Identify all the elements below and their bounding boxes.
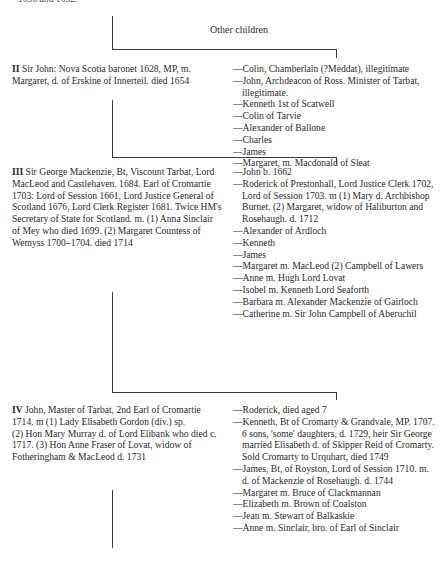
child-item: Margaret m. MacLeod (2) Campbell of Lawe… <box>233 260 438 272</box>
child-item: Kenneth 1st of Scatwell <box>233 98 438 110</box>
sibling-tick-iii <box>336 392 337 400</box>
child-item: Jean m. Stewart of Balkaskie <box>233 510 438 522</box>
child-item: Roderick of Prestonhall, Lord Justice Cl… <box>233 178 438 225</box>
child-item: James, Bt, of Royston, Lord of Session 1… <box>233 463 438 487</box>
descent-line-iii <box>112 292 113 393</box>
generation-iii-entry: III Sir George Mackenzie, Bt, Viscount T… <box>12 166 222 249</box>
sibling-tick-top <box>336 49 337 58</box>
cutoff-text: 1650 and 1652. <box>18 0 77 5</box>
child-item: Colin, Chamberlain (?Meddat), illegitima… <box>233 63 438 75</box>
sibling-bracket-top <box>112 49 337 50</box>
generation-ii-entry: II Sir John: Nova Scotia baronet 1628, M… <box>12 63 222 87</box>
sibling-bracket-ii <box>112 157 337 158</box>
generation-numeral: III <box>12 166 23 177</box>
child-item: John b. 1662 <box>233 166 438 178</box>
other-children-label: Other children <box>210 24 268 35</box>
child-item: Colin of Tarvie <box>233 110 438 122</box>
generation-description: John, Master of Tarbat, 2nd Earl of Crom… <box>12 404 201 427</box>
child-item: Anne m. Hugh Lord Lovat <box>233 272 438 284</box>
generation-iii-children: John b. 1662 Roderick of Prestonhall, Lo… <box>233 166 438 319</box>
generation-iv-entry: IV John, Master of Tarbat, 2nd Earl of C… <box>12 404 222 463</box>
child-item: Isobel m. Kenneth Lord Seaforth <box>233 284 438 296</box>
child-item: Barbara m. Alexander Mackenzie of Gairlo… <box>233 296 438 308</box>
child-item: Alexander of Ardloch <box>233 225 438 237</box>
generation-numeral: II <box>12 63 19 74</box>
generation-ii-children: Colin, Chamberlain (?Meddat), illegitima… <box>233 63 438 169</box>
child-item: James <box>233 249 438 261</box>
child-item: Roderick, died aged 7 <box>233 404 438 416</box>
child-item: Kenneth <box>233 237 438 249</box>
child-item: Anne m. Sinclair, bro. of Earl of Sincla… <box>233 522 438 534</box>
child-item: John, Archdeacon of Ross. Minister of Ta… <box>233 75 438 99</box>
child-item: Kenneth, Bt of Cromarty & Grandvale, MP.… <box>233 416 438 463</box>
descent-line-ii <box>112 100 113 158</box>
child-item: Alexander of Ballone <box>233 122 438 134</box>
sibling-tick-ii <box>336 157 337 164</box>
child-item: Catherine m. Sir John Campbell of Aberuc… <box>233 308 438 320</box>
child-item: Margaret m. Bruce of Clackmannan <box>233 487 438 499</box>
child-item: James <box>233 146 438 158</box>
generation-description: Sir George Mackenzie, Bt, Viscount Tarba… <box>12 166 222 248</box>
sibling-bracket-iii <box>112 392 337 393</box>
child-item: Charles <box>233 134 438 146</box>
generation-description-continued: (2) Hon Mary Murray d. of Lord Elibank w… <box>12 428 222 463</box>
generation-numeral: IV <box>12 404 23 415</box>
descent-line-top <box>112 16 113 50</box>
generation-description: Sir John: Nova Scotia baronet 1628, MP, … <box>12 63 191 86</box>
descent-line-iv <box>112 490 113 548</box>
child-item: Elizabeth m. Brown of Coalston <box>233 498 438 510</box>
generation-iv-children: Roderick, died aged 7 Kenneth, Bt of Cro… <box>233 404 438 534</box>
